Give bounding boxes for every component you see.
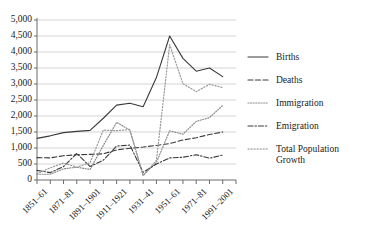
series-line-total-population-growth	[37, 45, 223, 176]
population-line-chart: 05001,0001,5002,0002,5003,0003,5004,0004…	[0, 0, 368, 241]
y-axis-tick-label: 3,500	[0, 63, 32, 73]
legend-label: Immigration	[276, 98, 324, 109]
y-axis-tick-label: 5,000	[0, 15, 32, 25]
y-axis-tick-label: 1,000	[0, 143, 32, 153]
y-axis-tick-label: 2,000	[0, 111, 32, 121]
y-axis-tick-label: 500	[0, 159, 32, 169]
y-axis-tick-label: 3,000	[0, 79, 32, 89]
y-axis-tick-label: 4,500	[0, 31, 32, 41]
y-axis-tick-label: 1,500	[0, 127, 32, 137]
y-axis-tick-label: 0	[0, 175, 32, 185]
legend-label: Emigration	[276, 121, 319, 132]
legend-label: Births	[276, 52, 299, 63]
legend-label: Growth	[276, 155, 305, 166]
legend-label: Deaths	[276, 75, 302, 86]
y-axis-tick-label: 2,500	[0, 95, 32, 105]
y-axis-tick-label: 4,000	[0, 47, 32, 57]
legend-label: Total Population	[276, 144, 339, 155]
